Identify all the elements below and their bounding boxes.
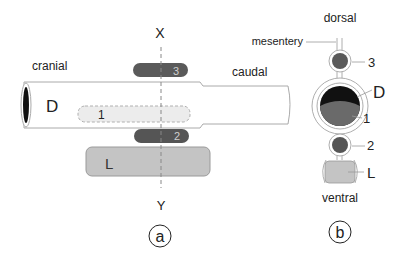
- structure-2-circle: [332, 137, 348, 153]
- tube-d-lumen-icon: [23, 87, 29, 123]
- structure-3-label: 3: [173, 65, 179, 77]
- caudal-label: caudal: [232, 65, 267, 79]
- structure-l-label: L: [105, 155, 113, 172]
- b-label-d: D: [373, 83, 385, 102]
- axis-y-label: Y: [157, 198, 166, 213]
- panel-a-tag: a: [156, 228, 165, 245]
- b-label-1: 1: [363, 111, 370, 126]
- panel-a: X cranial caudal 3 D 1 2 L Y a: [21, 25, 290, 247]
- panel-b-tag: b: [336, 224, 345, 241]
- diagram-canvas: X cranial caudal 3 D 1 2 L Y a dorsal me…: [0, 0, 410, 259]
- panel-b: dorsal mesentery 3 D 1 2 L: [252, 11, 386, 243]
- b-label-3: 3: [368, 55, 375, 70]
- structure-1-label: 1: [98, 108, 105, 122]
- structure-1-dashed: [78, 106, 190, 122]
- structure-3-circle: [332, 53, 348, 69]
- mesentery-label: mesentery: [252, 35, 304, 47]
- b-label-2: 2: [367, 138, 374, 153]
- ventral-label: ventral: [322, 191, 358, 205]
- axis-x-label: X: [155, 25, 165, 41]
- tube-d-label: D: [46, 97, 58, 116]
- dorsal-label: dorsal: [324, 11, 357, 25]
- cranial-label: cranial: [32, 59, 67, 73]
- b-label-l: L: [367, 164, 375, 181]
- structure-2-label: 2: [174, 130, 180, 142]
